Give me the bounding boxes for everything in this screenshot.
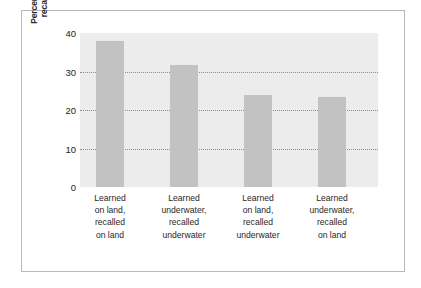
bar-series [80, 33, 378, 187]
y-tick-label: 40 [52, 28, 76, 39]
y-tick-label: 20 [52, 105, 76, 116]
bar-learned-on-land-recalled-underwater [244, 95, 272, 187]
y-tick-label: 0 [52, 182, 76, 193]
x-label-category-3: Learned on land, recalled underwater [221, 192, 295, 241]
bar-learned-underwater-recalled-on-land [318, 97, 346, 187]
x-label-category-1: Learned on land, recalled on land [73, 192, 147, 241]
bar-learned-on-land-recalled-on-land [96, 41, 124, 187]
plot-area [80, 33, 378, 187]
x-label-category-2: Learned underwater, recalled underwater [147, 192, 221, 241]
y-axis-tick-labels: 40 30 20 10 0 [52, 0, 76, 288]
bar-learned-underwater-recalled-underwater [170, 65, 198, 187]
x-label-category-4: Learned underwater, recalled on land [295, 192, 369, 241]
y-tick-label: 10 [52, 143, 76, 154]
y-tick-label: 30 [52, 66, 76, 77]
y-axis-title: Percentage of words recalled correctly [30, 0, 48, 58]
x-axis-category-labels: Learned on land, recalled on land Learne… [80, 192, 378, 254]
bar-chart-figure: Percentage of words recalled correctly 4… [0, 0, 421, 288]
